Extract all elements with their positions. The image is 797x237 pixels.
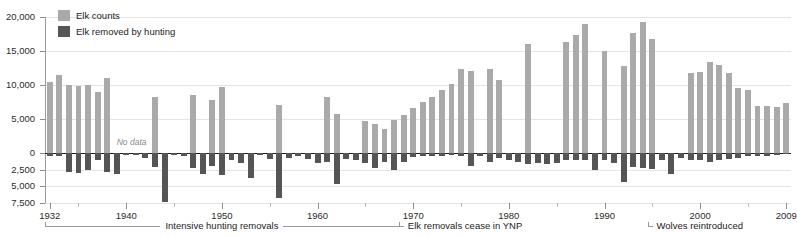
bracket-line	[399, 226, 404, 227]
elk-count-bar	[66, 85, 72, 153]
elk-removed-bar	[707, 153, 713, 162]
elk-removed-bar	[544, 153, 550, 164]
elk-removed-bar	[496, 153, 502, 158]
elk-removed-bar	[726, 153, 732, 159]
elk-removed-bar	[315, 153, 321, 163]
legend-label: Elk counts	[76, 11, 120, 21]
elk-removed-bar	[697, 153, 703, 160]
elk-count-bar	[602, 51, 608, 153]
elk-removed-bar	[200, 153, 206, 174]
elk-removed-bar	[630, 153, 636, 167]
bracket-label: Intensive hunting removals	[160, 221, 283, 231]
elk-removed-bar	[735, 153, 741, 158]
elk-removed-bar	[602, 153, 608, 160]
elk-removed-bar	[764, 153, 770, 156]
elk-removed-bar	[659, 153, 665, 160]
elk-count-bar	[95, 92, 101, 153]
elk-removed-bar	[573, 153, 579, 160]
elk-count-bar	[573, 35, 579, 153]
elk-count-bar	[745, 90, 751, 153]
elk-removed-bar	[716, 153, 722, 160]
elk-count-bar	[372, 124, 378, 153]
elk-count-bar	[56, 75, 62, 153]
elk-count-bar	[563, 42, 569, 153]
elk-count-bar	[362, 121, 368, 153]
elk-removed-bar	[449, 153, 455, 155]
bracket-label: Wolves reintroduced	[657, 221, 743, 231]
x-axis-label: 2009	[766, 211, 797, 221]
elk-removed-bar	[410, 153, 416, 157]
elk-removed-bar	[477, 153, 483, 156]
elk-count-bar	[707, 62, 713, 153]
elk-count-bar	[420, 102, 426, 153]
elk-removed-bar	[535, 153, 541, 163]
elk-removed-bar	[401, 153, 407, 162]
elk-count-bar	[429, 97, 435, 153]
elk-removed-bar	[382, 153, 388, 162]
elk-count-bar	[391, 120, 397, 153]
elk-removed-bar	[353, 153, 359, 160]
elk-count-bar	[85, 85, 91, 153]
elk-count-bar	[621, 66, 627, 153]
x-axis-minor-tick	[270, 203, 271, 207]
x-axis-label: 1960	[298, 211, 338, 221]
elk-removed-bar	[123, 153, 129, 155]
elk-removed-bar	[267, 153, 273, 159]
bracket-label: Elk removals cease in YNP	[408, 221, 522, 231]
elk-removed-bar	[774, 153, 780, 155]
elk-removed-bar	[324, 153, 330, 162]
elk-removed-bar	[372, 153, 378, 168]
elk-count-bar	[630, 33, 636, 153]
elk-removed-bar	[305, 153, 311, 159]
elk-count-bar	[783, 103, 789, 153]
elk-removed-bar	[668, 153, 674, 174]
elk-removed-bar	[582, 153, 588, 160]
elk-removed-bar	[190, 153, 196, 168]
legend-swatch-counts	[58, 10, 70, 21]
elk-removed-bar	[104, 153, 110, 172]
x-axis-tick	[509, 203, 510, 209]
elk-removed-bar	[621, 153, 627, 182]
elk-removed-bar	[229, 153, 235, 160]
elk-removed-bar	[391, 153, 397, 170]
elk-removed-bar	[209, 153, 215, 166]
elk-count-bar	[334, 114, 340, 153]
elk-count-bar	[410, 108, 416, 153]
x-axis-minor-tick	[557, 203, 558, 207]
elk-count-bar	[276, 105, 282, 153]
x-axis-tick	[50, 203, 51, 209]
elk-count-bar	[468, 71, 474, 153]
elk-count-bar	[774, 107, 780, 153]
elk-removed-bar	[429, 153, 435, 156]
elk-count-bar	[152, 97, 158, 153]
elk-removed-bar	[554, 153, 560, 163]
elk-removed-bar	[755, 153, 761, 156]
elk-count-bar	[649, 39, 655, 153]
elk-count-bar	[439, 90, 445, 153]
elk-count-bar	[735, 88, 741, 153]
elk-removed-bar	[66, 153, 72, 172]
elk-removed-bar	[649, 153, 655, 169]
legend-item-counts: Elk counts	[58, 10, 175, 21]
elk-removed-bar	[76, 153, 82, 173]
elk-count-bar	[76, 86, 82, 153]
elk-removed-bar	[133, 153, 139, 155]
elk-count-bar	[640, 22, 646, 153]
elk-count-bar	[324, 97, 330, 153]
elk-removed-bar	[688, 153, 694, 160]
x-axis-tick	[413, 203, 414, 209]
no-data-annotation: No data	[117, 137, 147, 147]
elk-removed-bar	[611, 153, 617, 163]
elk-count-bar	[755, 106, 761, 153]
elk-removed-bar	[142, 153, 148, 158]
elk-removed-bar	[515, 153, 521, 162]
elk-count-bar	[382, 129, 388, 153]
x-axis-minor-tick	[78, 203, 79, 207]
elk-count-bar	[525, 44, 531, 153]
elk-count-bar	[688, 73, 694, 153]
elk-removed-bar	[276, 153, 282, 198]
elk-removed-bar	[592, 153, 598, 170]
legend-swatch-removed	[58, 26, 70, 37]
elk-removed-bar	[162, 153, 168, 202]
elk-removed-bar	[95, 153, 101, 160]
